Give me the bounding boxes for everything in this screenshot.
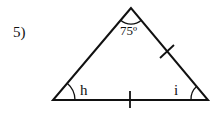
angle-i-arc [191, 87, 197, 100]
angle-h-arc [67, 83, 75, 100]
angle-i-label: i [174, 82, 178, 98]
triangle-diagram: 5) 75º h i [0, 0, 221, 115]
problem-number: 5) [13, 24, 26, 41]
angle-h-label: h [80, 82, 88, 98]
triangle [53, 8, 208, 100]
apex-angle-label: 75º [120, 23, 137, 38]
